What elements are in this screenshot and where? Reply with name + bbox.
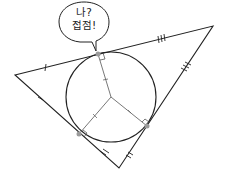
triple-tick-marks (158, 34, 191, 71)
incircle-diagram (0, 0, 227, 180)
speech-bubble-text: 나? 접점! (62, 6, 106, 32)
triangle (15, 26, 213, 168)
radii (79, 54, 147, 134)
bubble-line-2: 접점! (62, 19, 106, 32)
radius-ticks (93, 79, 131, 118)
bubble-line-1: 나? (62, 6, 106, 19)
right-angle-markers (83, 53, 149, 137)
